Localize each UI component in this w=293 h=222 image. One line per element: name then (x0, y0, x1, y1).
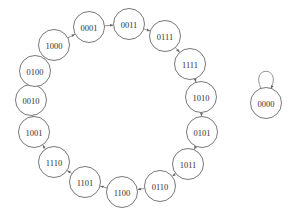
node-label: 0010 (23, 96, 40, 106)
edge-0110-to-1100 (138, 188, 145, 189)
state-node-1101: 1101 (70, 167, 101, 198)
node-label: 1100 (114, 188, 131, 198)
node-label: 1101 (77, 178, 94, 188)
node-label: 0000 (258, 99, 275, 109)
edge-1100-to-1101 (100, 186, 107, 188)
node-label: 0011 (121, 20, 138, 30)
state-node-1011: 1011 (173, 149, 204, 180)
state-node-1110: 1110 (39, 147, 70, 178)
state-node-1100: 1100 (107, 177, 138, 208)
state-node-1010: 1010 (186, 82, 217, 113)
state-graph: 0001001101111111101001011011011011001101… (0, 0, 293, 222)
edge-1000-to-0001 (68, 34, 75, 38)
node-label: 1110 (46, 158, 62, 168)
state-node-0111: 0111 (150, 21, 181, 52)
state-node-0011: 0011 (114, 9, 145, 40)
state-node-0100: 0100 (20, 56, 51, 87)
node-label: 0001 (81, 23, 98, 33)
edge-0001-to-0011 (104, 25, 113, 26)
edge-1101-to-1110 (67, 171, 72, 174)
node-label: 0111 (157, 32, 173, 42)
edge-1011-to-0110 (173, 174, 176, 177)
state-node-0010: 0010 (16, 85, 47, 116)
node-label: 1011 (180, 160, 197, 170)
state-node-1111: 1111 (175, 49, 206, 80)
self-loop-edge-0000 (259, 71, 274, 88)
node-label: 1001 (26, 128, 43, 138)
nodes: 0001001101111111101001011011011011001101… (16, 9, 282, 208)
edge-1110-to-1001 (43, 145, 46, 149)
edge-0011-to-0111 (144, 29, 150, 31)
edge-0111-to-1111 (175, 48, 179, 53)
edge-0101-to-1011 (194, 146, 195, 149)
state-node-1001: 1001 (19, 117, 50, 148)
state-node-0110: 0110 (145, 171, 176, 202)
node-label: 1111 (182, 60, 198, 70)
state-node-0000: 0000 (251, 88, 282, 119)
node-label: 0101 (194, 128, 211, 138)
state-node-0001: 0001 (74, 12, 105, 43)
state-node-0101: 0101 (187, 117, 218, 148)
node-label: 1000 (46, 41, 63, 51)
node-label: 0110 (152, 182, 169, 192)
edge-1111-to-1010 (195, 79, 196, 82)
state-node-1000: 1000 (39, 30, 70, 61)
node-label: 1010 (193, 93, 210, 103)
node-label: 0100 (27, 67, 44, 77)
